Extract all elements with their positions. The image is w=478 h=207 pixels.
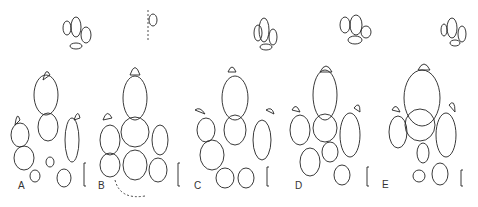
footprint-figure: A B (0, 0, 478, 207)
panel-e: E (382, 18, 466, 190)
inset-d (340, 15, 371, 44)
panel-label-d: D (295, 180, 302, 191)
panel-a: A (11, 17, 91, 191)
panel-label-e: E (382, 179, 389, 190)
panel-d: D (290, 15, 371, 191)
footprint-e (389, 64, 456, 185)
scale-bar-e (461, 170, 463, 186)
scale-bar-c (267, 167, 269, 186)
panel-b: B (98, 10, 180, 197)
inset-c (254, 18, 277, 50)
scale-bar-d (367, 167, 369, 186)
footprint-b (100, 68, 168, 197)
footprint-a (11, 71, 80, 187)
panel-c: C (194, 18, 277, 191)
inset-a (63, 17, 91, 49)
panel-label-b: B (98, 180, 105, 191)
panel-label-c: C (194, 180, 201, 191)
scale-bar-a (84, 163, 86, 186)
scale-bar-b (178, 163, 180, 186)
inset-e (441, 18, 466, 46)
footprint-d (290, 66, 360, 185)
panel-label-a: A (18, 180, 25, 191)
footprint-c (195, 67, 274, 188)
inset-b (148, 10, 157, 40)
